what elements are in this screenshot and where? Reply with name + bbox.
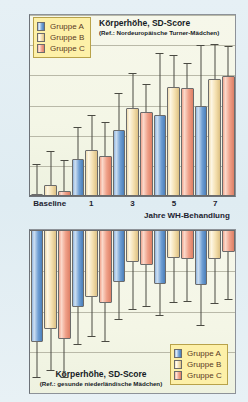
bottom-chart-title-line1: Körperhöhe, SD-Score — [36, 370, 166, 380]
bar-slot — [31, 230, 44, 393]
error-bar — [91, 115, 92, 150]
bar[interactable] — [208, 79, 221, 196]
error-bar — [159, 284, 160, 315]
error-bar — [146, 265, 147, 306]
error-bar — [228, 252, 229, 300]
error-bar — [187, 63, 188, 88]
error-bar — [132, 73, 133, 108]
error-bar — [214, 259, 215, 305]
bar-slot — [167, 15, 180, 196]
bar[interactable] — [195, 106, 208, 196]
bar[interactable] — [140, 230, 153, 265]
bottom-chart-legend: Gruppe A Gruppe B Gruppe C — [170, 344, 228, 385]
bar-slot — [140, 15, 153, 196]
bar[interactable] — [72, 159, 85, 196]
bar[interactable] — [113, 130, 126, 196]
legend-item-gruppe-c-bottom: Gruppe C — [174, 370, 222, 381]
error-bar — [118, 93, 119, 130]
x-label-1: 1 — [70, 200, 111, 208]
bar-slot — [222, 15, 235, 196]
bar-slot — [208, 15, 221, 196]
error-bar — [50, 329, 51, 371]
error-bar — [214, 44, 215, 79]
bar[interactable] — [85, 150, 98, 196]
error-bar — [228, 46, 229, 76]
legend-item-gruppe-a: Gruppe A — [37, 21, 85, 32]
bar-group — [112, 15, 153, 196]
bar[interactable] — [58, 230, 71, 339]
legend-item-gruppe-c: Gruppe C — [37, 43, 85, 54]
error-bar — [146, 84, 147, 112]
bar[interactable] — [85, 230, 98, 297]
bar-cluster — [194, 15, 235, 196]
legend-item-gruppe-b: Gruppe B — [37, 32, 85, 43]
legend-swatch-c-icon — [37, 44, 45, 53]
bar[interactable] — [181, 230, 194, 259]
chart-page: 0123456 Gruppe A Gruppe B Gruppe C Körpe… — [0, 0, 248, 402]
legend-swatch-a-icon — [37, 22, 45, 31]
bar[interactable] — [126, 108, 139, 196]
bar[interactable] — [113, 230, 126, 282]
bar[interactable] — [222, 76, 235, 196]
legend-label-b-bottom: Gruppe B — [187, 361, 221, 369]
bar-slot — [195, 15, 208, 196]
x-label-3: 3 — [112, 200, 153, 208]
bar[interactable] — [154, 230, 167, 284]
bottom-chart-title: Körperhöhe, SD-Score (Ref.: gesunde nied… — [36, 370, 166, 387]
legend-item-gruppe-a-bottom: Gruppe A — [174, 348, 222, 359]
legend-swatch-b-icon — [37, 33, 45, 42]
error-bar — [77, 307, 78, 345]
bar[interactable] — [44, 185, 57, 196]
top-chart-xaxis-title: Jahre WH-Behandlung — [144, 211, 230, 220]
legend-label-a-bottom: Gruppe A — [187, 350, 221, 358]
error-bar — [173, 55, 174, 88]
error-bar — [200, 285, 201, 326]
bar[interactable] — [31, 194, 44, 196]
legend-swatch-c-icon — [174, 371, 182, 380]
error-bar — [173, 258, 174, 304]
gridline — [30, 393, 235, 394]
legend-label-b: Gruppe B — [50, 34, 84, 42]
error-bar — [64, 339, 65, 377]
bar[interactable] — [154, 115, 167, 196]
bar-cluster — [112, 15, 153, 196]
bar[interactable] — [140, 112, 153, 196]
bar[interactable] — [195, 230, 208, 285]
error-bar — [105, 303, 106, 342]
error-bar — [77, 127, 78, 160]
top-chart-legend: Gruppe A Gruppe B Gruppe C — [33, 17, 91, 58]
error-bar — [64, 160, 65, 192]
bar[interactable] — [181, 88, 194, 196]
error-bar — [118, 282, 119, 321]
bar[interactable] — [126, 230, 139, 262]
bar[interactable] — [167, 87, 180, 196]
x-label-5: 5 — [153, 200, 194, 208]
bar[interactable] — [222, 230, 235, 252]
bar[interactable] — [72, 230, 85, 307]
error-bar — [91, 297, 92, 337]
legend-swatch-a-icon — [174, 349, 182, 358]
bar-slot — [113, 15, 126, 196]
error-bar — [132, 262, 133, 310]
legend-item-gruppe-b-bottom: Gruppe B — [174, 359, 222, 370]
top-chart-title: Körperhöhe, SD-Score (Ref.: Nordeuropäis… — [99, 19, 219, 36]
bar[interactable] — [99, 156, 112, 196]
bar-slot — [126, 15, 139, 196]
bar[interactable] — [167, 230, 180, 258]
bar[interactable] — [44, 230, 57, 329]
top-chart: 0123456 Gruppe A Gruppe B Gruppe C Körpe… — [0, 0, 248, 222]
bar[interactable] — [99, 230, 112, 303]
bar-slot — [154, 15, 167, 196]
x-label-baseline: Baseline — [29, 200, 70, 208]
error-bar — [105, 122, 106, 155]
bottom-chart-title-line2: (Ref.: gesunde niederländische Mädchen) — [36, 380, 166, 387]
error-bar — [200, 45, 201, 106]
bar[interactable] — [31, 230, 44, 342]
legend-label-a: Gruppe A — [50, 23, 84, 31]
bar[interactable] — [58, 191, 71, 196]
bar[interactable] — [208, 230, 221, 259]
error-bar — [159, 53, 160, 116]
error-bar — [36, 164, 37, 193]
bar-cluster — [153, 15, 194, 196]
bar-group — [194, 15, 235, 196]
